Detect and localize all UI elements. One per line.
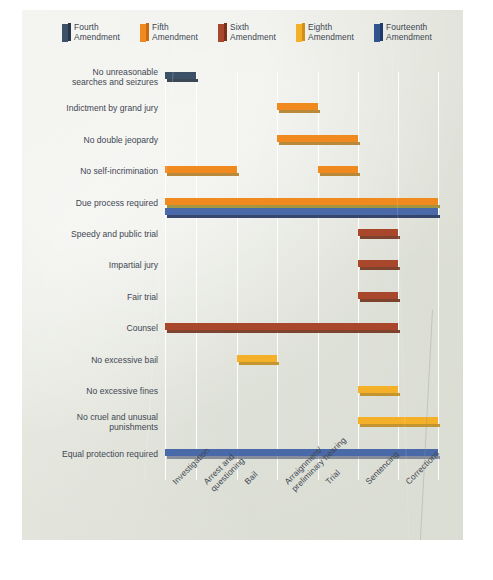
row-label: Fair trial <box>28 292 158 302</box>
chart-row: No excessive fines <box>22 386 463 408</box>
chart-row: Indictment by grand jury <box>22 103 463 125</box>
legend-item-fourteenth: Fourteenth Amendment <box>374 22 452 42</box>
chart-row: Counsel <box>22 323 463 345</box>
bar-sixth <box>358 229 398 238</box>
bar-sixth <box>358 292 398 301</box>
book-swatch-icon <box>374 23 383 42</box>
legend-item-sixth: Sixth Amendment <box>218 22 296 42</box>
bar-eighth <box>237 355 277 364</box>
bar-fourth <box>165 72 196 81</box>
row-label: Impartial jury <box>28 260 158 270</box>
bar-fifth <box>318 166 358 175</box>
chart-row: No double jeopardy <box>22 135 463 157</box>
bar-sixth <box>165 323 398 332</box>
chart-row: Impartial jury <box>22 260 463 282</box>
chart-row: No cruel and unusual punishments <box>22 417 463 439</box>
row-label: Indictment by grand jury <box>28 103 158 113</box>
bar-fifth <box>165 166 237 175</box>
bar-fifth <box>277 135 358 144</box>
legend-item-label: Eighth Amendment <box>308 22 354 42</box>
row-label: No excessive fines <box>28 386 158 396</box>
book-swatch-icon <box>218 23 227 42</box>
row-label: No self-incrimination <box>28 166 158 176</box>
bar-sixth <box>358 260 398 269</box>
bar-fifth <box>277 103 318 112</box>
legend-item-label: Fourth Amendment <box>74 22 120 42</box>
book-swatch-icon <box>62 23 71 42</box>
chart-row: Due process required <box>22 198 463 220</box>
bar-fourteenth <box>165 208 438 217</box>
book-swatch-icon <box>140 23 149 42</box>
row-label: No unreasonable searches and seizures <box>28 67 158 87</box>
row-label: No excessive bail <box>28 355 158 365</box>
bar-fifth <box>165 198 438 207</box>
legend-item-label: Fourteenth Amendment <box>386 22 432 42</box>
chart-row: No self-incrimination <box>22 166 463 188</box>
row-label: Counsel <box>28 323 158 333</box>
row-label: Equal protection required <box>28 449 158 459</box>
chart-panel: Fourth AmendmentFifth AmendmentSixth Ame… <box>22 10 463 540</box>
legend-item-fourth: Fourth Amendment <box>62 22 140 42</box>
legend-item-label: Sixth Amendment <box>230 22 276 42</box>
row-label: Due process required <box>28 198 158 208</box>
legend-item-eighth: Eighth Amendment <box>296 22 374 42</box>
row-label: Speedy and public trial <box>28 229 158 239</box>
legend-item-label: Fifth Amendment <box>152 22 198 42</box>
row-label: No double jeopardy <box>28 135 158 145</box>
chart-legend: Fourth AmendmentFifth AmendmentSixth Ame… <box>62 22 452 56</box>
row-label: No cruel and unusual punishments <box>28 412 158 432</box>
legend-item-fifth: Fifth Amendment <box>140 22 218 42</box>
chart-row: No unreasonable searches and seizures <box>22 72 463 94</box>
bar-eighth <box>358 386 398 395</box>
x-axis-labels: InvestigationArrest and questioningBailA… <box>22 480 463 540</box>
book-swatch-icon <box>296 23 305 42</box>
chart-row: Speedy and public trial <box>22 229 463 251</box>
chart-row: Fair trial <box>22 292 463 314</box>
bar-eighth <box>358 417 438 426</box>
chart-row: No excessive bail <box>22 355 463 377</box>
